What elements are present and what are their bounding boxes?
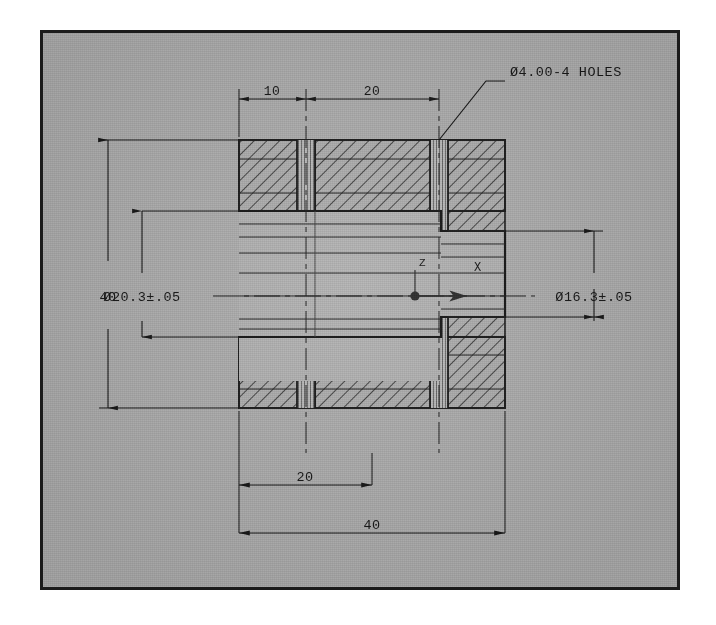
top-dimension-group: 10 20: [239, 84, 439, 137]
ucs-x-label: X: [474, 261, 482, 275]
dim-text-bottom-inner: 20: [296, 470, 313, 485]
dim-text-bottom-overall: 40: [363, 518, 380, 533]
right-step-hatch-lower: [441, 317, 505, 337]
right-step-hatch-upper: [441, 211, 505, 231]
dim-text-top-right: 20: [364, 84, 381, 99]
scanned-page: X Z 10 20 Ø4.00-4 HOLES: [0, 0, 716, 625]
leader-line: [439, 81, 505, 140]
cad-drawing-canvas: X Z 10 20 Ø4.00-4 HOLES: [43, 33, 677, 587]
drawing-plate: X Z 10 20 Ø4.00-4 HOLES: [40, 30, 680, 590]
left-dimension-group: 40 Ø20.3±.05: [99, 140, 239, 408]
bottom-dimension-group: 20 40: [239, 411, 505, 533]
dim-text-left-bore: Ø20.3±.05: [103, 290, 180, 305]
dim-text-right-bore: Ø16.3±.05: [555, 290, 632, 305]
leader-note-group: Ø4.00-4 HOLES: [439, 65, 622, 140]
dim-text-top-left: 10: [264, 84, 281, 99]
leader-note-text: Ø4.00-4 HOLES: [510, 65, 622, 80]
right-dimension-group: Ø16.3±.05: [505, 231, 633, 321]
upper-flange-hatch: [239, 140, 505, 211]
ucs-z-label: Z: [419, 257, 426, 269]
